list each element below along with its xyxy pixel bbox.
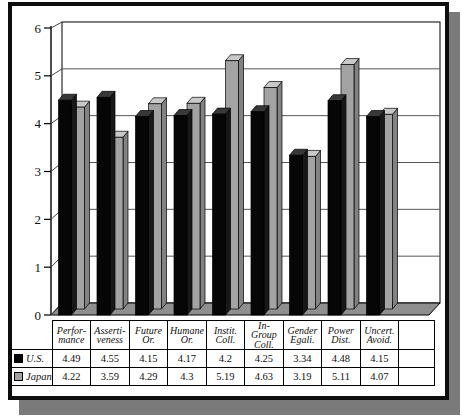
- value-cell-japan-8: 4.07: [360, 368, 399, 386]
- category-header-humane-or: HumaneOr.: [168, 321, 207, 350]
- y-axis-label: 5: [35, 68, 42, 83]
- bar-us-humane-or-front-face: [174, 116, 187, 315]
- value-cell-japan-4: 5.19: [206, 368, 245, 386]
- value-cell-japan-6: 3.19: [283, 368, 322, 386]
- y-tick-depth-connector: [51, 69, 62, 76]
- bar-japan-performance-side-face: [85, 101, 90, 309]
- value-cell-empty: [399, 350, 435, 368]
- legend-cell-us: U.S.: [12, 350, 53, 368]
- bar-us-performance-side-face: [72, 94, 77, 315]
- legend-label-japan: Japan: [26, 371, 52, 382]
- bar-japan-instit-coll-side-face: [239, 55, 244, 309]
- y-axis-label: 6: [35, 21, 42, 36]
- bar-us-gender-egali-side-face: [303, 149, 308, 315]
- bar-japan-humane-or-side-face: [200, 97, 205, 309]
- category-header-assertiveness: Asserti-veness: [91, 321, 130, 350]
- value-cell-us-0: 4.49: [52, 350, 91, 368]
- bar-us-instit-coll-side-face: [226, 108, 231, 315]
- y-tick-depth-connector: [51, 22, 62, 28]
- value-cell-japan-5: 4.63: [245, 368, 284, 386]
- bar-japan-gender-egali-side-face: [316, 150, 321, 309]
- bar-japan-assertiveness-side-face: [123, 131, 128, 309]
- value-cell-us-4: 4.2: [206, 350, 245, 368]
- value-cell-japan-1: 3.59: [91, 368, 130, 386]
- value-cell-us-1: 4.55: [91, 350, 130, 368]
- bar-us-gender-egali-front-face: [290, 155, 303, 315]
- value-cell-us-2: 4.15: [129, 350, 168, 368]
- value-cell-japan-7: 5.11: [322, 368, 361, 386]
- japan-legend-swatch-icon: [14, 372, 23, 381]
- data-table-wrap: Perfor-manceAsserti-venessFutureOr.Human…: [11, 320, 435, 386]
- bar-us-humane-or-side-face: [187, 110, 192, 315]
- table-body: Perfor-manceAsserti-venessFutureOr.Human…: [12, 321, 435, 386]
- bar-us-future-or-side-face: [149, 110, 154, 315]
- bar-us-power-dist-front-face: [328, 101, 341, 315]
- bar-us-in-group-coll-front-face: [251, 112, 264, 315]
- bar-us-uncert-avoid-side-face: [380, 110, 385, 315]
- y-axis-label: 3: [35, 164, 42, 179]
- y-axis-label: 2: [35, 212, 42, 227]
- value-cell-us-8: 4.15: [360, 350, 399, 368]
- y-axis-label: 1: [35, 260, 42, 275]
- series-row-japan: Japan4.223.594.294.35.194.633.195.114.07: [12, 368, 435, 386]
- value-cell-japan-3: 4.3: [168, 368, 207, 386]
- figure-canvas: 0123456 Perfor-manceAsserti-venessFuture…: [0, 0, 462, 420]
- value-cell-japan-2: 4.29: [129, 368, 168, 386]
- table-corner-blank: [12, 321, 53, 350]
- bar-us-in-group-coll-side-face: [264, 106, 269, 315]
- table-header-row: Perfor-manceAsserti-venessFutureOr.Human…: [12, 321, 435, 350]
- bar-us-assertiveness-front-face: [97, 97, 110, 315]
- category-header-future-or: FutureOr.: [129, 321, 168, 350]
- bar-us-instit-coll-front-face: [213, 114, 226, 315]
- bar-us-assertiveness-side-face: [110, 91, 115, 315]
- value-cell-us-3: 4.17: [168, 350, 207, 368]
- legend-cell-japan: Japan: [12, 368, 53, 386]
- us-legend-swatch-icon: [14, 354, 23, 363]
- category-header-power-dist: PowerDist.: [322, 321, 361, 350]
- bar-japan-uncert-avoid-side-face: [393, 108, 398, 309]
- category-header-empty: [399, 321, 435, 350]
- y-axis-label: 4: [35, 116, 42, 131]
- bar-us-performance-front-face: [59, 100, 72, 315]
- value-cell-japan-0: 4.22: [52, 368, 91, 386]
- data-table: Perfor-manceAsserti-venessFutureOr.Human…: [11, 320, 435, 386]
- bar-us-future-or-front-face: [136, 116, 149, 315]
- bar-us-power-dist-side-face: [341, 95, 346, 315]
- value-cell-us-6: 3.34: [283, 350, 322, 368]
- category-header-in-group-coll: In-GroupColl.: [245, 321, 284, 350]
- value-cell-empty: [399, 368, 435, 386]
- category-header-performance: Perfor-mance: [52, 321, 91, 350]
- bar-us-uncert-avoid-front-face: [367, 116, 380, 315]
- value-cell-us-7: 4.48: [322, 350, 361, 368]
- series-row-us: U.S.4.494.554.154.174.24.253.344.484.15: [12, 350, 435, 368]
- bar-japan-in-group-coll-side-face: [277, 82, 282, 309]
- category-header-instit-coll: Instit.Coll.: [206, 321, 245, 350]
- bar-japan-future-or-side-face: [162, 98, 167, 309]
- category-header-uncert-avoid: Uncert.Avoid.: [360, 321, 399, 350]
- value-cell-us-5: 4.25: [245, 350, 284, 368]
- bar-japan-power-dist-side-face: [354, 59, 359, 309]
- legend-label-us: U.S.: [26, 353, 44, 364]
- category-header-gender-egali: GenderEgali.: [283, 321, 322, 350]
